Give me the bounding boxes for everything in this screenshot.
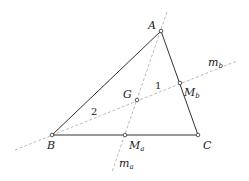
- point-c: [196, 133, 200, 137]
- label-a: A: [147, 19, 156, 32]
- label-g: G: [123, 88, 132, 101]
- label-line-ma: ma: [119, 157, 134, 171]
- label-mb: Mb: [183, 86, 200, 100]
- label-b: B: [46, 139, 55, 152]
- point-ma: [123, 133, 127, 137]
- triangle-diagram: A B C G Ma Mb ma mb 2 1: [0, 0, 249, 181]
- point-mb: [178, 81, 182, 85]
- label-line-mb: mb: [208, 56, 223, 70]
- point-a: [159, 29, 163, 33]
- point-g: [135, 98, 139, 102]
- point-b: [50, 133, 54, 137]
- label-c: C: [203, 139, 212, 152]
- ratio-label-2: 2: [91, 106, 97, 117]
- label-ma: Ma: [128, 139, 144, 153]
- side-ab: [52, 31, 161, 135]
- ratio-label-1: 1: [155, 80, 161, 91]
